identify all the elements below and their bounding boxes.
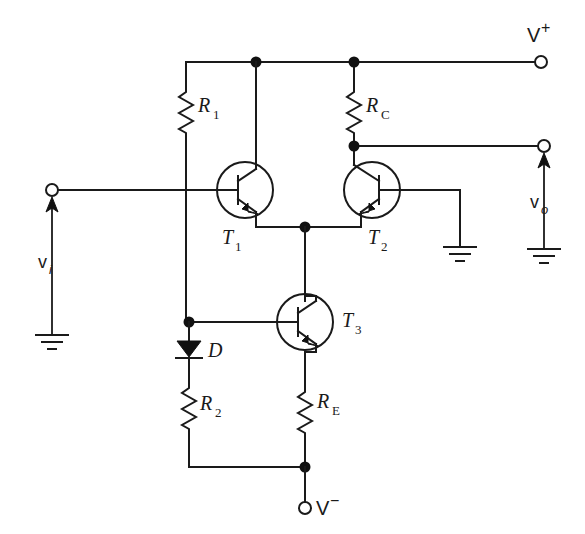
transistor-t1 [210, 162, 305, 227]
junction-top-right [349, 57, 360, 68]
label-terminal-v-out: v [530, 192, 539, 212]
schematic-canvas: R 1 R C R 2 R E T 1 T 2 T 3 D V + V − v … [0, 0, 585, 534]
transistor-t3 [270, 294, 333, 352]
label-terminal-v-in: v [38, 252, 47, 272]
label-resistor-r2: R [199, 392, 212, 414]
junction-t2-collector-output [349, 141, 360, 152]
label-resistor-r1: R [197, 94, 210, 116]
label-terminal-v-minus-superscript: − [330, 492, 339, 509]
ground-symbol-output [528, 249, 560, 263]
terminal-v-plus-node[interactable] [535, 56, 547, 68]
label-transistor-t1-subscript: 1 [235, 239, 242, 254]
label-transistor-t2: T [368, 226, 381, 248]
terminal-v-out-node[interactable] [538, 140, 550, 152]
arrow-v-in [46, 197, 58, 333]
label-resistor-re: R [316, 390, 329, 412]
label-resistor-re-subscript: E [332, 403, 340, 418]
label-resistor-rc-subscript: C [381, 107, 390, 122]
label-terminal-v-out-subscript: o [541, 202, 548, 217]
ground-symbol-input [36, 335, 68, 349]
label-transistor-t3-subscript: 3 [355, 322, 362, 337]
label-transistor-t2-subscript: 2 [381, 239, 388, 254]
transistor-t2 [305, 162, 407, 227]
ground-symbol-t2-base [444, 247, 476, 261]
terminal-v-minus-node[interactable] [299, 502, 311, 514]
wire-t2-base-to-ground [379, 190, 460, 245]
label-terminal-v-plus: V [527, 24, 541, 46]
circuit-schematic: R 1 R C R 2 R E T 1 T 2 T 3 D V + V − v … [0, 0, 585, 534]
resistor-re [298, 352, 312, 467]
label-transistor-t3: T [342, 309, 355, 331]
label-resistor-r1-subscript: 1 [213, 107, 220, 122]
label-terminal-v-minus: V [316, 497, 330, 519]
label-transistor-t1: T [222, 226, 235, 248]
label-resistor-r2-subscript: 2 [215, 405, 222, 420]
terminal-v-in-node[interactable] [46, 184, 58, 196]
diode-d [176, 322, 202, 383]
arrow-v-out [538, 153, 550, 247]
label-terminal-v-plus-superscript: + [541, 19, 550, 36]
label-resistor-rc: R [365, 94, 378, 116]
label-diode-d: D [207, 339, 223, 361]
branch-r1 [179, 62, 193, 322]
